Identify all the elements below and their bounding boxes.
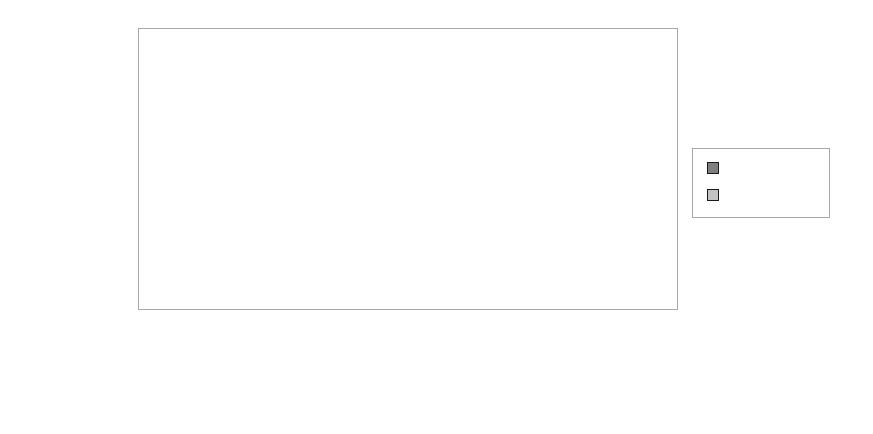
rcs-bar-chart xyxy=(0,0,873,434)
legend-item-mean xyxy=(707,162,723,174)
legend xyxy=(692,148,830,218)
legend-swatch-mean-icon xyxy=(707,162,719,174)
legend-swatch-median-icon xyxy=(707,189,719,201)
legend-item-median xyxy=(707,189,723,201)
y-axis-tick-labels xyxy=(34,0,130,434)
plot-area xyxy=(138,28,678,310)
